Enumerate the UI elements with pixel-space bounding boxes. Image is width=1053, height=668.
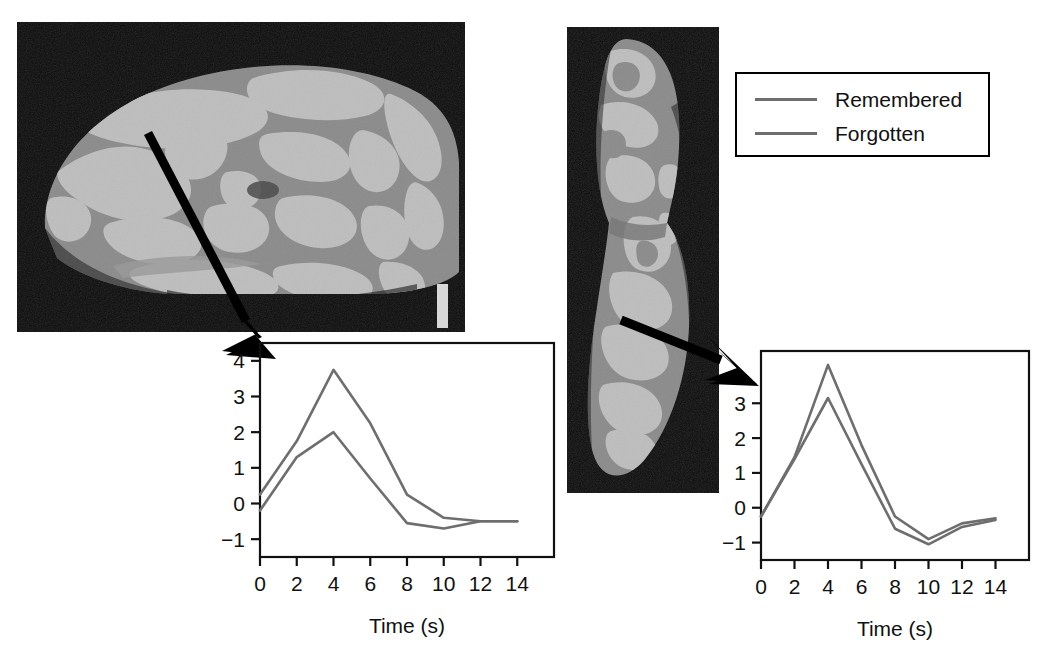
x-tick-label: 4 xyxy=(822,575,834,598)
x-tick-label: 14 xyxy=(984,575,1008,598)
y-tick-label: 2 xyxy=(233,421,245,444)
y-tick-label: 4 xyxy=(233,349,245,372)
legend-swatch-remembered xyxy=(755,98,817,101)
series-line-forgotten xyxy=(260,432,517,528)
x-tick-label: 2 xyxy=(291,572,303,595)
y-tick-label: 3 xyxy=(233,385,245,408)
figure-canvas: Remembered Forgotten 43210−102468101214T… xyxy=(0,0,1053,668)
x-tick-label: 6 xyxy=(856,575,868,598)
x-tick-label: 10 xyxy=(432,572,455,595)
series-line-remembered xyxy=(260,370,517,522)
right-timecourse-plot: 3210−102468101214Time (s) xyxy=(713,345,1043,657)
y-tick-label: −1 xyxy=(221,528,245,551)
x-tick-label: 6 xyxy=(364,572,376,595)
y-tick-label: −1 xyxy=(722,531,746,554)
y-tick-label: 1 xyxy=(734,461,746,484)
x-tick-label: 10 xyxy=(917,575,940,598)
scale-bar xyxy=(437,284,448,328)
x-tick-label: 12 xyxy=(469,572,492,595)
lateral-cortical-surface xyxy=(17,22,465,332)
y-tick-label: 0 xyxy=(734,496,746,519)
x-tick-label: 2 xyxy=(789,575,801,598)
x-tick-label: 8 xyxy=(401,572,413,595)
y-tick-label: 0 xyxy=(233,492,245,515)
plot-legend: Remembered Forgotten xyxy=(735,72,990,157)
series-line-forgotten xyxy=(761,398,996,544)
x-tick-label: 14 xyxy=(506,572,530,595)
plot-frame xyxy=(260,343,554,557)
x-tick-label: 12 xyxy=(950,575,973,598)
x-tick-label: 0 xyxy=(254,572,266,595)
x-tick-label: 4 xyxy=(328,572,340,595)
legend-swatch-forgotten xyxy=(755,132,817,135)
ventral-temporal-surface xyxy=(567,27,719,493)
legend-label-forgotten: Forgotten xyxy=(835,123,925,144)
x-axis-title: Time (s) xyxy=(369,614,445,637)
series-line-remembered xyxy=(761,365,996,539)
left-timecourse-plot: 43210−102468101214Time (s) xyxy=(212,335,572,655)
legend-label-remembered: Remembered xyxy=(835,89,962,110)
legend-item-remembered: Remembered xyxy=(737,82,988,116)
x-tick-label: 0 xyxy=(755,575,767,598)
y-tick-label: 3 xyxy=(734,392,746,415)
x-tick-label: 8 xyxy=(889,575,901,598)
y-tick-label: 2 xyxy=(734,427,746,450)
legend-item-forgotten: Forgotten xyxy=(737,116,988,150)
x-axis-title: Time (s) xyxy=(857,617,933,640)
y-tick-label: 1 xyxy=(233,456,245,479)
